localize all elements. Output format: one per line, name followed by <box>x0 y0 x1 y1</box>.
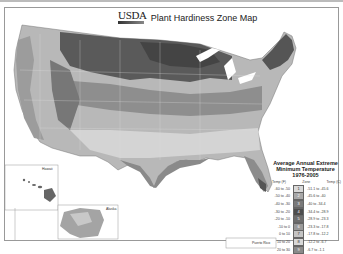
usda-logo: USDA <box>118 11 147 24</box>
legend-temp-c: -17.8 to -12.2 <box>307 232 337 236</box>
legend-temp-f: 10 to 20 <box>268 240 290 244</box>
legend-temp-f: 20 to 30 <box>268 248 290 252</box>
legend-row-zone-8: 10 to 208-12.2 to -6.7 <box>268 238 343 246</box>
legend-temp-f: -40 to -30 <box>268 202 290 206</box>
legend: Average Annual Extreme Minimum Temperatu… <box>268 160 343 253</box>
hawaii-label: Hawaii <box>42 167 53 171</box>
legend-temp-c: -23.3 to -17.8 <box>307 225 337 229</box>
legend-temp-f: -60 to -50 <box>268 187 290 191</box>
legend-swatch: 9 <box>293 246 304 254</box>
legend-temp-f: -30 to -20 <box>268 210 290 214</box>
alaska-label: Alaska <box>106 207 117 211</box>
legend-row-zone-9: 20 to 309-6.7 to -1.1 <box>268 246 343 254</box>
legend-col-zone: Zone <box>302 180 310 184</box>
legend-temp-c: -40 to -34.4 <box>307 202 337 206</box>
legend-temp-f: -50 to -40 <box>268 194 290 198</box>
legend-header: Temp (F) Zone Temp (C) <box>272 180 341 184</box>
legend-row-zone-4: -30 to -204-34.4 to -28.9 <box>268 208 343 216</box>
legend-title-3: 1976-2005 <box>268 172 343 178</box>
legend-temp-f: -20 to -10 <box>268 217 290 221</box>
usda-logo-bar <box>118 21 144 24</box>
legend-temp-f: -10 to 0 <box>268 225 290 229</box>
legend-row-zone-5: -20 to -105-28.9 to -23.3 <box>268 215 343 223</box>
legend-temp-c: -34.4 to -28.9 <box>307 210 337 214</box>
usda-logo-text: USDA <box>118 11 147 20</box>
legend-col-c: Temp (C) <box>327 180 341 184</box>
legend-rows: -60 to -501-51.1 to -45.6 -50 to -402-45… <box>268 185 343 253</box>
legend-row-zone-1: -60 to -501-51.1 to -45.6 <box>268 185 343 193</box>
legend-temp-c: -12.2 to -6.7 <box>307 240 337 244</box>
map-header: USDA Plant Hardiness Zone Map <box>118 11 257 24</box>
legend-temp-f: 0 to 10 <box>268 232 290 236</box>
hawaii-inset <box>5 165 58 210</box>
map-title: Plant Hardiness Zone Map <box>151 13 258 23</box>
legend-row-zone-2: -50 to -402-45.6 to -40 <box>268 193 343 201</box>
legend-temp-c: -51.1 to -45.6 <box>307 187 337 191</box>
legend-col-f: Temp (F) <box>272 180 286 184</box>
legend-temp-c: -45.6 to -40 <box>307 194 337 198</box>
legend-temp-c: -28.9 to -23.3 <box>307 217 337 221</box>
legend-row-zone-3: -40 to -303-40 to -34.4 <box>268 200 343 208</box>
legend-row-zone-6: -10 to 06-23.3 to -17.8 <box>268 223 343 231</box>
legend-row-zone-7: 0 to 107-17.8 to -12.2 <box>268 231 343 239</box>
legend-temp-c: -6.7 to -1.1 <box>307 248 337 252</box>
